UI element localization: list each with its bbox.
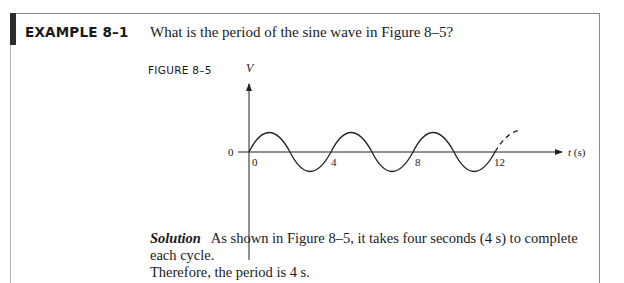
x-tick-0: 0 [252,156,258,168]
origin-label: 0 [228,146,234,158]
solution-heading: Solution [150,230,201,246]
x-tick-12: 12 [494,156,505,168]
x-tick-8: 8 [415,156,421,168]
x-tick-4: 4 [331,156,337,168]
x-axis-label: t (s) [568,146,586,159]
solution-block: SolutionAs shown in Figure 8–5, it takes… [150,230,600,281]
y-axis-label: V [246,61,255,75]
solution-line-2: Therefore, the period is 4 s. [150,264,600,281]
solution-line-1: SolutionAs shown in Figure 8–5, it takes… [150,230,600,264]
sine-wave-continuation [495,130,520,152]
solution-text-1: As shown in Figure 8–5, it takes four se… [150,230,578,263]
